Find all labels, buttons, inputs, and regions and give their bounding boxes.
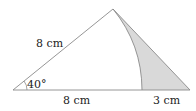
label-angle: 40° xyxy=(27,78,47,91)
label-base-left: 8 cm xyxy=(63,94,91,107)
label-base-right: 3 cm xyxy=(153,94,181,107)
triangle-diagram: 8 cm 40° 8 cm 3 cm xyxy=(0,0,196,111)
label-left-side: 8 cm xyxy=(36,37,64,50)
